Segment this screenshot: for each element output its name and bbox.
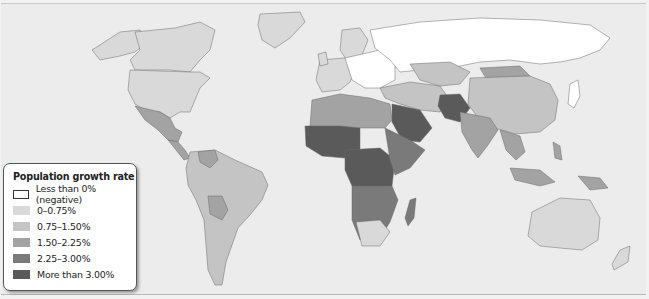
region-new-zealand (612, 246, 630, 270)
legend-label: More than 3.00% (37, 269, 114, 280)
legend-item-225-300: 2.25–3.00% (13, 250, 136, 266)
legend-title: Population growth rate (13, 171, 136, 182)
region-indonesia (510, 168, 555, 186)
legend-label: 0–0.75% (37, 205, 76, 216)
region-greenland (258, 12, 305, 48)
region-central-america (168, 140, 190, 160)
region-australia (528, 198, 600, 250)
legend-swatch (13, 254, 30, 263)
legend-label: 0.75–1.50% (37, 221, 90, 232)
region-philippines (553, 142, 562, 160)
legend-label: 1.50–2.25% (37, 237, 90, 248)
region-japan (568, 80, 580, 108)
legend-item-150-225: 1.50–2.25% (13, 234, 136, 250)
region-southeast-asia (500, 130, 525, 160)
legend-item-075-150: 0.75–1.50% (13, 218, 136, 234)
region-uk (318, 52, 328, 66)
legend-swatch (13, 270, 30, 279)
legend-swatch (13, 238, 30, 247)
map-legend: Population growth rate Less than 0% (neg… (3, 163, 137, 291)
legend-swatch (13, 206, 30, 215)
region-central-africa (345, 148, 395, 192)
region-north-africa (310, 94, 392, 130)
legend-item-negative: Less than 0% (negative) (13, 186, 136, 202)
region-papua (578, 176, 608, 190)
region-madagascar (405, 198, 416, 226)
legend-label: Less than 0% (negative) (36, 183, 136, 205)
region-russia (370, 18, 610, 72)
legend-item-over-300: More than 3.00% (13, 266, 136, 282)
legend-swatch (13, 222, 30, 231)
region-south-america (186, 150, 268, 285)
legend-label: 2.25–3.00% (37, 253, 90, 264)
legend-swatch (13, 190, 29, 199)
region-canada (130, 22, 215, 72)
